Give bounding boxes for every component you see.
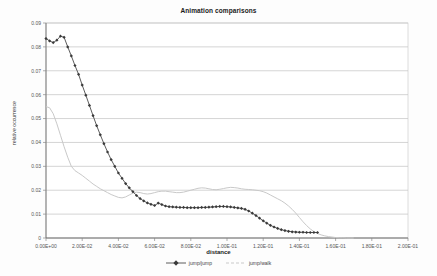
svg-text:0.01: 0.01 — [31, 211, 41, 217]
legend-item-jump-walk[interactable]: jump/walk — [226, 259, 271, 267]
svg-text:0.00E+00: 0.00E+00 — [35, 243, 57, 249]
legend-label: jump/walk — [249, 260, 271, 266]
legend-label: jump/jump — [189, 260, 212, 266]
y-axis-title: relative occurrence — [11, 83, 17, 163]
svg-text:0: 0 — [38, 235, 41, 241]
chart-container: Animation comparisons 00.010.020.030.040… — [0, 0, 437, 276]
svg-text:8.00E-02: 8.00E-02 — [181, 243, 202, 249]
svg-text:0.03: 0.03 — [31, 163, 41, 169]
svg-text:1.80E-01: 1.80E-01 — [362, 243, 383, 249]
svg-text:0.06: 0.06 — [31, 92, 41, 98]
svg-text:6.00E-02: 6.00E-02 — [144, 243, 165, 249]
svg-text:4.00E-02: 4.00E-02 — [108, 243, 129, 249]
svg-text:1.20E-01: 1.20E-01 — [253, 243, 274, 249]
x-axis-title: distance — [0, 249, 437, 255]
chart-legend: jump/jump jump/walk — [0, 259, 437, 267]
y-axis-tick-labels: 00.010.020.030.040.050.060.070.080.09 — [31, 20, 41, 241]
svg-text:2.00E-01: 2.00E-01 — [398, 243, 419, 249]
svg-text:0.02: 0.02 — [31, 187, 41, 193]
svg-text:1.40E-01: 1.40E-01 — [289, 243, 310, 249]
svg-text:0.07: 0.07 — [31, 68, 41, 74]
svg-text:0.09: 0.09 — [31, 20, 41, 26]
svg-text:2.00E-02: 2.00E-02 — [72, 243, 93, 249]
svg-text:0.05: 0.05 — [31, 115, 41, 121]
svg-text:0.04: 0.04 — [31, 139, 41, 145]
plot-area: 00.010.020.030.040.050.060.070.080.09 0.… — [0, 0, 437, 276]
svg-text:1.60E-01: 1.60E-01 — [325, 243, 346, 249]
legend-item-jump-jump[interactable]: jump/jump — [166, 259, 212, 267]
legend-dash-line-icon — [226, 259, 246, 267]
svg-text:0.08: 0.08 — [31, 44, 41, 50]
svg-text:1.00E-01: 1.00E-01 — [217, 243, 238, 249]
x-axis-tick-labels: 0.00E+002.00E-024.00E-026.00E-028.00E-02… — [35, 243, 418, 249]
legend-marker-line-icon — [166, 259, 186, 267]
